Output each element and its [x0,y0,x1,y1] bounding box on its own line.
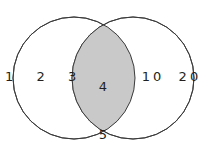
venn-diagram: 1 2 3 4 5 6 10 20 [0,0,207,156]
right-set-elements: 10 20 [133,70,207,83]
intersection-element-1: 4 [80,79,126,95]
intersection-element-2: 5 [80,127,126,143]
intersection-elements: 4 5 6 [80,47,126,156]
left-set-elements: 1 2 3 [0,70,74,83]
